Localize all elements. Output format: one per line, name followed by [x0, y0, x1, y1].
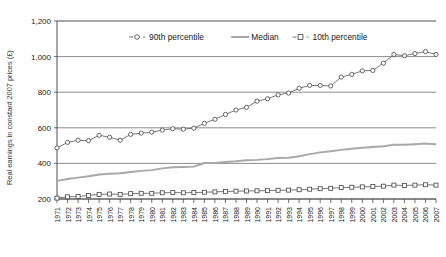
y-axis-title: Real earnings in constant 2007 prices (£…	[5, 50, 14, 185]
data-point-10th	[287, 188, 291, 192]
y-tick-label-1,000: 1,000	[31, 53, 52, 62]
data-point-10th	[360, 185, 364, 189]
data-point-10th	[97, 192, 101, 196]
x-tick-label-1993: 1993	[286, 207, 293, 223]
y-tick-label-400: 400	[38, 159, 52, 168]
x-tick-label-1977: 1977	[117, 207, 124, 223]
x-tick-label-2003: 2003	[391, 207, 398, 223]
legend-marker-10th-icon	[298, 35, 303, 40]
data-point-10th	[255, 189, 259, 193]
data-point-10th	[434, 183, 438, 187]
data-point-10th	[181, 191, 185, 195]
data-point-10th	[413, 183, 417, 187]
data-point-90th	[392, 52, 396, 56]
data-point-10th	[402, 183, 406, 187]
data-point-10th	[213, 190, 217, 194]
x-tick-label-2007: 2007	[433, 207, 440, 223]
data-point-90th	[265, 97, 269, 101]
data-point-90th	[244, 105, 248, 109]
data-point-90th	[276, 93, 280, 97]
data-point-10th	[339, 186, 343, 190]
legend-marker-90th-icon	[135, 35, 140, 40]
data-point-90th	[360, 69, 364, 73]
x-tick-label-2006: 2006	[422, 207, 429, 223]
data-point-10th	[129, 192, 133, 196]
data-point-10th	[371, 185, 375, 189]
x-tick-label-1989: 1989	[244, 207, 251, 223]
earnings-percentile-line-chart: Real earnings in constant 2007 prices (£…	[0, 0, 446, 257]
x-tick-label-1999: 1999	[349, 207, 356, 223]
x-tick-label-2000: 2000	[359, 207, 366, 223]
x-tick-label-1996: 1996	[317, 207, 324, 223]
legend-label-median: Median	[251, 32, 279, 42]
data-point-90th	[108, 135, 112, 139]
data-point-90th	[308, 83, 312, 87]
x-tick-label-1974: 1974	[86, 207, 93, 223]
data-point-90th	[97, 133, 101, 137]
data-point-10th	[381, 184, 385, 188]
data-point-10th	[329, 186, 333, 190]
series-line-median	[57, 143, 436, 180]
data-point-90th	[171, 127, 175, 131]
data-point-90th	[423, 50, 427, 54]
data-point-10th	[139, 191, 143, 195]
x-tick-label-1986: 1986	[212, 207, 219, 223]
data-point-90th	[202, 121, 206, 125]
data-point-90th	[318, 83, 322, 87]
y-tick-label-600: 600	[38, 124, 52, 133]
data-point-90th	[86, 139, 90, 143]
data-point-90th	[234, 108, 238, 112]
x-tick-label-2004: 2004	[401, 207, 408, 223]
x-tick-label-1994: 1994	[296, 207, 303, 223]
data-point-10th	[108, 192, 112, 196]
data-point-10th	[392, 183, 396, 187]
data-point-90th	[76, 138, 80, 142]
data-point-90th	[297, 86, 301, 90]
x-tick-label-1992: 1992	[275, 207, 282, 223]
legend-label-90th-percentile: 90th percentile	[149, 32, 204, 42]
data-point-10th	[423, 183, 427, 187]
x-tick-label-1979: 1979	[138, 207, 145, 223]
data-point-10th	[150, 191, 154, 195]
x-tick-label-1978: 1978	[128, 207, 135, 223]
data-point-90th	[350, 72, 354, 76]
x-tick-label-2001: 2001	[370, 207, 377, 223]
x-tick-label-1995: 1995	[307, 207, 314, 223]
x-tick-label-2005: 2005	[412, 207, 419, 223]
x-tick-label-1981: 1981	[159, 207, 166, 223]
y-tick-label-800: 800	[38, 88, 52, 97]
data-point-10th	[350, 185, 354, 189]
data-point-90th	[402, 54, 406, 58]
data-point-90th	[255, 99, 259, 103]
data-point-90th	[213, 117, 217, 121]
data-point-10th	[297, 188, 301, 192]
x-tick-label-1973: 1973	[75, 207, 82, 223]
data-point-10th	[223, 190, 227, 194]
data-point-10th	[87, 193, 91, 197]
x-tick-label-1971: 1971	[54, 207, 61, 223]
x-tick-label-1980: 1980	[149, 207, 156, 223]
x-tick-label-1985: 1985	[201, 207, 208, 223]
x-tick-label-1984: 1984	[191, 207, 198, 223]
y-tick-label-200: 200	[38, 195, 52, 204]
x-tick-label-1976: 1976	[107, 207, 114, 223]
data-point-10th	[318, 187, 322, 191]
y-tick-label-1,200: 1,200	[31, 17, 52, 26]
data-point-90th	[329, 84, 333, 88]
data-point-90th	[160, 128, 164, 132]
x-tick-label-2002: 2002	[380, 207, 387, 223]
x-tick-label-1975: 1975	[96, 207, 103, 223]
data-point-10th	[55, 196, 59, 200]
data-point-90th	[413, 51, 417, 55]
data-point-10th	[234, 189, 238, 193]
data-point-10th	[276, 188, 280, 192]
x-tick-label-1988: 1988	[233, 207, 240, 223]
x-tick-label-1983: 1983	[180, 207, 187, 223]
data-point-90th	[223, 112, 227, 116]
data-point-90th	[371, 68, 375, 72]
x-tick-label-1997: 1997	[328, 207, 335, 223]
data-point-90th	[150, 130, 154, 134]
data-point-90th	[434, 52, 438, 56]
data-point-90th	[55, 146, 59, 150]
data-point-10th	[171, 191, 175, 195]
